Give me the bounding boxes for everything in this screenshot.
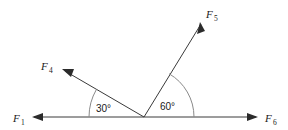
arrowhead-f1: [32, 113, 43, 121]
force-label-f5: F 5: [205, 8, 218, 23]
force-symbol-f6: F: [264, 112, 272, 124]
force-diagram-svg: 30° 60° F 1 F 4 F 5 F 6: [0, 0, 288, 130]
force-diagram-container: 30° 60° F 1 F 4 F 5 F 6: [0, 0, 288, 130]
force-label-f6: F 6: [264, 112, 277, 127]
force-label-f4: F 4: [40, 60, 53, 75]
force-subscript-f5: 5: [214, 14, 218, 23]
force-subscript-f1: 1: [21, 118, 25, 127]
force-symbol-f4: F: [40, 60, 48, 72]
angle-label-30: 30°: [96, 103, 111, 114]
force-subscript-f4: 4: [49, 66, 53, 75]
arrowhead-f6: [247, 113, 258, 121]
force-label-f1: F 1: [12, 112, 25, 127]
force-subscript-f6: 6: [273, 118, 277, 127]
force-symbol-f1: F: [12, 112, 20, 124]
force-symbol-f5: F: [205, 8, 213, 20]
angle-label-60: 60°: [160, 101, 175, 112]
arrowhead-f4: [62, 69, 74, 77]
